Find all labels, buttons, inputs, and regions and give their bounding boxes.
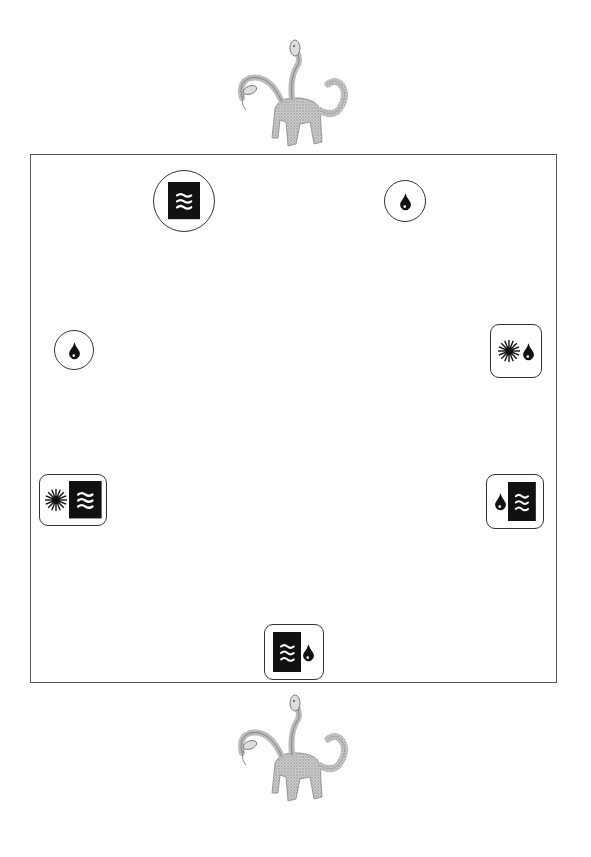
token-top-left[interactable]	[153, 170, 215, 232]
water-drop-icon	[68, 341, 81, 360]
water-drop-icon	[399, 192, 412, 211]
creature-top	[230, 38, 360, 153]
water-waves-icon	[168, 182, 200, 219]
token-mid-left[interactable]	[54, 330, 94, 370]
water-drop-icon	[494, 492, 507, 511]
token-bottom-center[interactable]	[264, 624, 324, 680]
water-waves-icon	[508, 482, 536, 522]
game-board	[30, 154, 557, 683]
water-waves-icon	[69, 481, 102, 518]
token-lower-left[interactable]	[39, 474, 107, 526]
sun-icon	[497, 339, 521, 363]
water-drop-icon	[522, 342, 535, 361]
token-top-right[interactable]	[384, 180, 426, 222]
water-waves-icon	[273, 632, 302, 672]
water-drop-icon	[302, 643, 315, 662]
multi-headed-serpent-beast-icon	[230, 793, 360, 812]
token-lower-right[interactable]	[486, 474, 544, 529]
sun-icon	[44, 488, 68, 512]
token-mid-right[interactable]	[490, 324, 542, 378]
creature-bottom	[230, 693, 360, 808]
